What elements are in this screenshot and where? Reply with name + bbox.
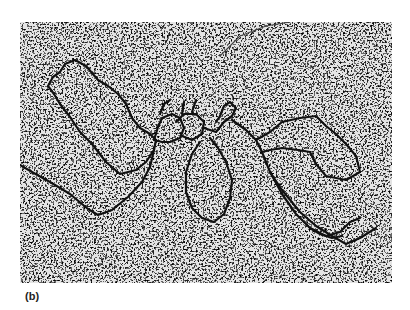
micrograph-svg bbox=[20, 22, 392, 283]
figure-label: (b) bbox=[25, 290, 39, 302]
micrograph-image bbox=[20, 22, 392, 283]
